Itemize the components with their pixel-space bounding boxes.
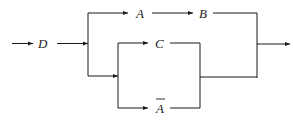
node-not-a-label: A [155,101,164,116]
node-d-label: D [37,36,48,51]
node-a-label: A [135,6,144,21]
b-output-wire [213,13,257,78]
c-output-wire [170,43,200,108]
node-b-label: B [199,6,207,21]
block-diagram: D A B C A [0,0,293,120]
node-c-label: C [155,36,164,51]
